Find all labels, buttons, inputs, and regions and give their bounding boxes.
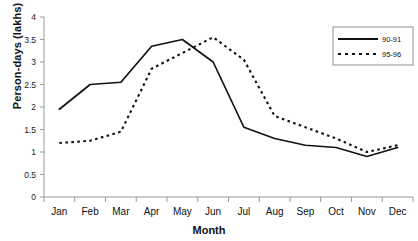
x-tick-label: Jul [237, 206, 250, 217]
x-tick-label: Mar [112, 206, 130, 217]
chart-container: Person-days (lakhs) Month 00.511.522.533… [0, 0, 418, 241]
y-tick-label: 4 [31, 12, 36, 22]
x-tick-label: Jan [51, 206, 67, 217]
y-tick-label: 0.5 [24, 170, 36, 180]
x-tick-label: Nov [358, 206, 376, 217]
y-tick-label: 2 [31, 102, 36, 112]
plot-area: 00.511.522.533.54 JanFebMarAprMayJunJulA… [0, 0, 418, 241]
x-tick-label: Feb [82, 206, 100, 217]
legend: 90-9195-96 [333, 27, 413, 65]
x-tick-label: Apr [144, 206, 160, 217]
y-tick-label: 3.5 [24, 35, 36, 45]
x-tick-label: Jun [205, 206, 221, 217]
x-tick-label: Sep [296, 206, 314, 217]
x-tick-label: Aug [266, 206, 284, 217]
y-tick-label: 2.5 [24, 80, 36, 90]
x-axis-labels: JanFebMarAprMayJunJulAugSepOctNovDec [51, 206, 406, 217]
y-tick-label: 3 [31, 57, 36, 67]
legend-label-95-96: 95-96 [382, 50, 401, 59]
legend-frame [333, 27, 413, 65]
x-tick-label: May [173, 206, 192, 217]
y-tick-label: 0 [31, 192, 36, 202]
y-axis-ticks: 00.511.522.533.54 [24, 12, 44, 202]
x-tick-label: Dec [389, 206, 407, 217]
x-axis-ticks [44, 197, 413, 202]
y-tick-label: 1 [31, 147, 36, 157]
legend-label-90-91: 90-91 [382, 35, 401, 44]
y-tick-label: 1.5 [24, 125, 36, 135]
x-tick-label: Oct [328, 206, 344, 217]
